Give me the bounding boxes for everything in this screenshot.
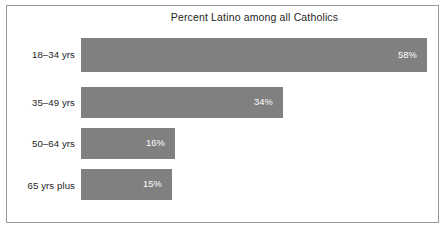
category-label-18-34: 18–34 yrs [8,49,75,60]
bar-18-34 [81,38,427,72]
category-label-35-49: 35–49 yrs [8,97,75,108]
bar-35-49 [81,87,283,118]
bar-value-18-34: 58% [398,50,417,60]
category-label-65-plus: 65 yrs plus [8,180,75,191]
category-label-50-64: 50–64 yrs [8,138,75,149]
chart-figure: Percent Latino among all Catholics 18–34… [0,0,446,236]
plot-area: 18–34 yrs 58% 35–49 yrs 34% 50–64 yrs 16… [0,0,446,236]
bar-value-35-49: 34% [254,97,273,107]
bar-value-65-plus: 15% [143,179,162,189]
bar-value-50-64: 16% [146,138,165,148]
